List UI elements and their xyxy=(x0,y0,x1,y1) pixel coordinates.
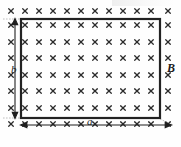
field-cross-mark xyxy=(23,23,28,28)
field-cross-mark xyxy=(149,56,154,61)
field-cross-mark xyxy=(37,40,42,45)
field-cross-mark xyxy=(93,73,98,78)
field-cross-mark xyxy=(135,23,140,28)
field-cross-mark xyxy=(135,106,140,111)
field-cross-mark xyxy=(9,40,14,45)
field-cross-mark xyxy=(135,73,140,78)
field-cross-mark xyxy=(9,89,14,94)
field-cross-mark xyxy=(79,9,84,14)
field-cross-mark xyxy=(79,122,84,127)
field-cross-mark xyxy=(65,89,70,94)
field-cross-mark xyxy=(23,9,28,14)
field-cross-mark xyxy=(107,106,112,111)
field-cross-mark xyxy=(37,56,42,61)
width-label-a: a xyxy=(87,116,93,127)
field-cross-mark xyxy=(166,89,171,94)
field-cross-mark xyxy=(65,56,70,61)
field-cross-mark xyxy=(149,9,154,14)
field-cross-mark xyxy=(166,9,171,14)
field-cross-mark xyxy=(93,40,98,45)
field-cross-mark xyxy=(37,89,42,94)
field-cross-mark xyxy=(107,122,112,127)
field-cross-mark xyxy=(107,23,112,28)
field-cross-mark xyxy=(51,73,56,78)
field-cross-mark xyxy=(107,56,112,61)
field-cross-mark xyxy=(79,23,84,28)
field-cross-mark xyxy=(23,56,28,61)
field-cross-mark xyxy=(149,89,154,94)
field-cross-mark xyxy=(37,122,42,127)
field-cross-mark xyxy=(37,73,42,78)
field-cross-mark xyxy=(107,89,112,94)
field-cross-mark xyxy=(23,89,28,94)
field-cross-mark xyxy=(149,106,154,111)
field-cross-mark xyxy=(79,73,84,78)
field-cross-mark xyxy=(51,40,56,45)
field-cross-mark xyxy=(51,122,56,127)
field-cross-mark xyxy=(135,56,140,61)
field-cross-mark xyxy=(93,89,98,94)
magnetic-field-label-B: B xyxy=(167,62,175,74)
height-label-b: b xyxy=(11,64,17,75)
field-cross-mark xyxy=(79,40,84,45)
field-cross-mark xyxy=(107,9,112,14)
field-cross-mark xyxy=(107,73,112,78)
field-cross-mark xyxy=(166,56,171,61)
field-cross-mark xyxy=(9,106,14,111)
field-cross-mark xyxy=(135,122,140,127)
field-cross-mark xyxy=(149,73,154,78)
field-cross-mark xyxy=(51,56,56,61)
dimension-guide-lines xyxy=(3,19,173,125)
field-cross-mark xyxy=(65,9,70,14)
field-cross-mark xyxy=(37,23,42,28)
field-cross-mark xyxy=(121,122,126,127)
field-cross-mark xyxy=(121,40,126,45)
field-cross-mark xyxy=(107,40,112,45)
field-cross-mark xyxy=(93,56,98,61)
field-cross-mark xyxy=(121,9,126,14)
field-cross-mark xyxy=(65,73,70,78)
field-cross-mark xyxy=(166,23,171,28)
field-cross-mark xyxy=(23,40,28,45)
field-cross-mark xyxy=(135,9,140,14)
field-cross-mark xyxy=(149,122,154,127)
field-cross-mark xyxy=(51,106,56,111)
field-cross-mark xyxy=(121,106,126,111)
field-cross-mark xyxy=(37,106,42,111)
field-cross-mark xyxy=(79,89,84,94)
field-cross-mark xyxy=(79,56,84,61)
field-cross-mark xyxy=(79,106,84,111)
field-cross-mark xyxy=(23,106,28,111)
field-cross-mark xyxy=(166,40,171,45)
field-cross-mark xyxy=(121,89,126,94)
field-cross-mark xyxy=(149,23,154,28)
field-cross-marks-group xyxy=(9,9,171,127)
field-cross-mark xyxy=(51,89,56,94)
arrow-b-head-bottom xyxy=(12,112,17,118)
field-cross-mark xyxy=(9,122,14,127)
conducting-loop-rectangle xyxy=(21,19,160,118)
field-cross-mark xyxy=(23,73,28,78)
field-cross-mark xyxy=(65,122,70,127)
field-cross-mark xyxy=(93,9,98,14)
field-cross-mark xyxy=(9,56,14,61)
field-cross-mark xyxy=(93,122,98,127)
arrow-b-head-top xyxy=(12,19,17,25)
field-cross-mark xyxy=(121,56,126,61)
field-cross-mark xyxy=(37,9,42,14)
physics-figure-rectangular-loop: b a B xyxy=(0,0,181,147)
field-cross-mark xyxy=(166,106,171,111)
field-cross-mark xyxy=(93,23,98,28)
field-cross-mark xyxy=(9,9,14,14)
field-cross-mark xyxy=(121,73,126,78)
field-cross-mark xyxy=(65,106,70,111)
arrow-a-head-left xyxy=(21,122,27,127)
field-cross-mark xyxy=(149,40,154,45)
field-cross-mark xyxy=(121,23,126,28)
field-cross-mark xyxy=(65,40,70,45)
field-cross-mark xyxy=(51,9,56,14)
field-cross-mark xyxy=(51,23,56,28)
field-cross-mark xyxy=(93,106,98,111)
field-cross-mark xyxy=(135,40,140,45)
field-cross-mark xyxy=(65,23,70,28)
